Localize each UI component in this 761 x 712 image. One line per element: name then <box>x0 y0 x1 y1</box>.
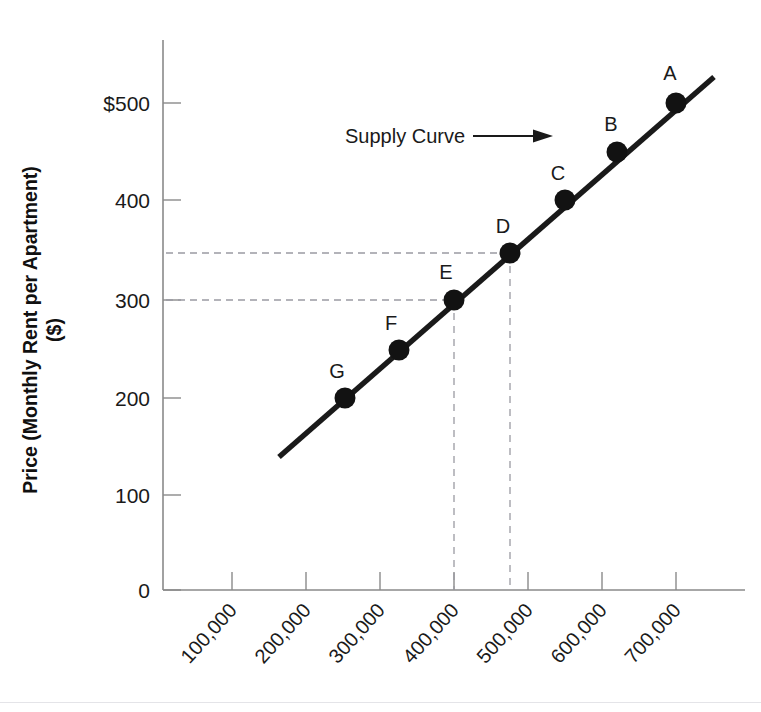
x-tick-label-100000: 100,000 <box>176 599 241 667</box>
data-point-label-f: F <box>385 312 397 334</box>
y-tick-label-100: 100 <box>115 484 150 507</box>
x-axis-tick-labels: 100,000 200,000 300,000 400,000 500,000 … <box>176 599 685 667</box>
x-tick-label-600000: 600,000 <box>546 599 611 667</box>
supply-curve-chart: G F E D C B A 0 100 200 300 400 $500 100… <box>0 0 761 712</box>
y-axis-title-line2: ($) <box>43 318 65 342</box>
y-tick-label-400: 400 <box>115 189 150 212</box>
data-point-a[interactable] <box>666 93 687 114</box>
y-tick-label-200: 200 <box>115 387 150 410</box>
y-tick-label-0: 0 <box>138 579 150 602</box>
data-point-f[interactable] <box>389 340 410 361</box>
x-tick-label-200000: 200,000 <box>250 599 315 667</box>
y-axis-tick-labels: 0 100 200 300 400 $500 <box>103 92 150 602</box>
y-tick-label-500: $500 <box>103 92 150 115</box>
data-point-d[interactable] <box>500 243 521 264</box>
data-point-label-b: B <box>604 113 617 135</box>
x-tick-label-300000: 300,000 <box>324 599 389 667</box>
chart-page: G F E D C B A 0 100 200 300 400 $500 100… <box>0 0 761 712</box>
data-point-g[interactable] <box>335 388 356 409</box>
data-point-label-d: D <box>496 215 510 237</box>
y-tick-marks <box>163 103 181 590</box>
data-point-e[interactable] <box>444 290 465 311</box>
data-point-c[interactable] <box>555 190 576 211</box>
x-tick-label-700000: 700,000 <box>620 599 685 667</box>
y-axis-title-line1: Price (Monthly Rent per Apartment) <box>19 166 41 494</box>
footer-divider <box>0 702 761 703</box>
x-tick-label-400000: 400,000 <box>398 599 463 667</box>
supply-curve-annotation: Supply Curve <box>345 125 553 147</box>
data-point-b[interactable] <box>607 142 628 163</box>
data-point-label-c: C <box>551 162 565 184</box>
y-tick-label-300: 300 <box>115 289 150 312</box>
supply-curve-annotation-label: Supply Curve <box>345 125 465 147</box>
data-point-labels: G F E D C B A <box>329 62 677 382</box>
x-tick-label-500000: 500,000 <box>472 599 537 667</box>
y-axis-title-group: Price (Monthly Rent per Apartment) ($) <box>19 166 65 494</box>
data-point-label-e: E <box>439 261 452 283</box>
right-arrow-icon <box>473 130 553 143</box>
data-point-label-g: G <box>329 360 345 382</box>
data-point-label-a: A <box>663 62 677 84</box>
